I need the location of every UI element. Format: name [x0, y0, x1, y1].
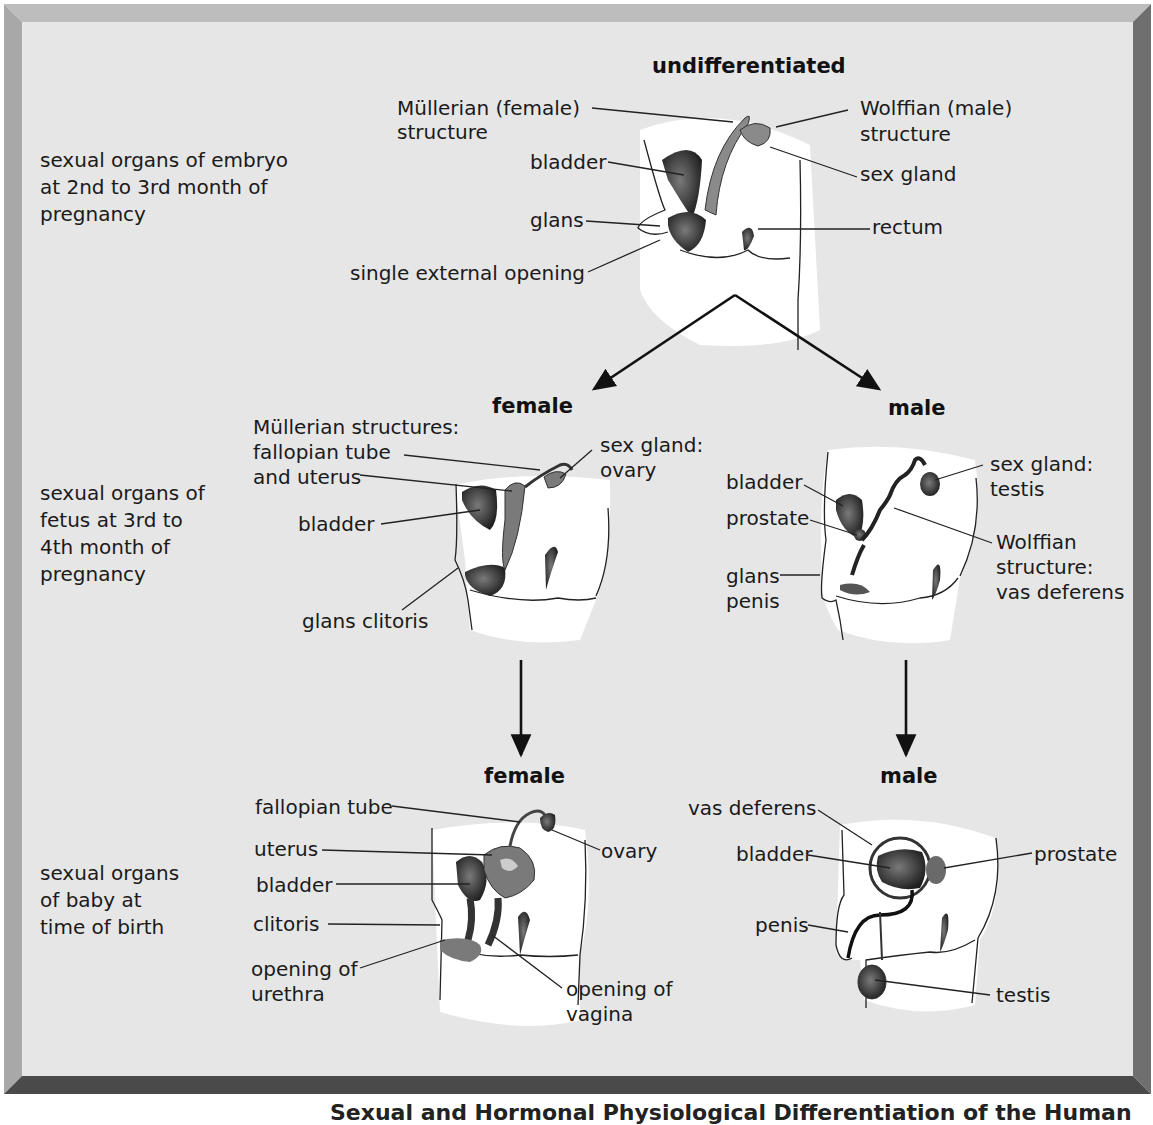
stage-line: fetus at 3rd to: [40, 507, 205, 534]
label-sex-gland: sex gland: [860, 162, 956, 186]
label-mullerian-structure-2: structure: [397, 120, 488, 144]
label-testis: testis: [996, 983, 1050, 1007]
label-bladder: bladder: [256, 873, 332, 897]
label-glans: glans: [530, 208, 584, 232]
label-wolffian-structure: Wolffian (male): [860, 96, 1012, 120]
label-single-external-opening: single external opening: [350, 261, 585, 285]
label-vas-deferens: vas deferens: [688, 796, 816, 820]
stage-line: pregnancy: [40, 201, 288, 228]
label-clitoris: clitoris: [253, 912, 319, 936]
label-fallopian-tube: fallopian tube: [255, 795, 393, 819]
label-vas-deferens: vas deferens: [996, 580, 1124, 604]
stage-line: sexual organs of embryo: [40, 147, 288, 174]
label-fallopian-tube: fallopian tube: [253, 440, 391, 464]
label-glans-penis-2: penis: [726, 589, 780, 613]
label-and-uterus: and uterus: [253, 465, 361, 489]
label-opening-of-vagina: opening of: [566, 977, 672, 1001]
stage-line: sexual organs: [40, 860, 179, 887]
heading-baby-female: female: [484, 764, 565, 788]
label-uterus: uterus: [254, 837, 318, 861]
stage-line: pregnancy: [40, 561, 205, 588]
stage-description-fetus: sexual organs of fetus at 3rd to 4th mon…: [40, 480, 205, 588]
label-bladder: bladder: [736, 842, 812, 866]
label-urethra: urethra: [251, 982, 325, 1006]
stage-line: of baby at: [40, 887, 179, 914]
label-bladder: bladder: [530, 150, 606, 174]
fetus-male-illustration: [821, 447, 978, 644]
label-penis: penis: [755, 913, 809, 937]
label-prostate: prostate: [726, 506, 809, 530]
stage-line: sexual organs of: [40, 480, 205, 507]
label-wolffian-structure-2: structure: [860, 122, 951, 146]
heading-fetus-male: male: [888, 396, 946, 420]
label-wolffian: Wolffian: [996, 530, 1077, 554]
heading-baby-male: male: [880, 764, 938, 788]
label-glans-penis: glans: [726, 564, 780, 588]
stage-description-embryo: sexual organs of embryo at 2nd to 3rd mo…: [40, 147, 288, 228]
label-mullerian-structure: Müllerian (female): [397, 96, 580, 120]
label-vagina: vagina: [566, 1002, 633, 1026]
label-prostate: prostate: [1034, 842, 1117, 866]
figure-caption: Sexual and Hormonal Physiological Differ…: [330, 1100, 1132, 1125]
label-bladder: bladder: [298, 512, 374, 536]
label-glans-clitoris: glans clitoris: [302, 609, 428, 633]
undifferentiated-illustration: [638, 116, 820, 350]
label-sex-gland-testis: sex gland:: [990, 452, 1093, 476]
label-testis: testis: [990, 477, 1044, 501]
label-bladder: bladder: [726, 470, 802, 494]
label-ovary: ovary: [600, 458, 656, 482]
stage-description-baby: sexual organs of baby at time of birth: [40, 860, 179, 941]
baby-male-illustration: [836, 820, 998, 1012]
fetus-female-illustration: [455, 464, 610, 642]
stage-line: 4th month of: [40, 534, 205, 561]
label-opening-of-urethra: opening of: [251, 957, 357, 981]
stage-line: at 2nd to 3rd month of: [40, 174, 288, 201]
heading-fetus-female: female: [492, 394, 573, 418]
stage-line: time of birth: [40, 914, 179, 941]
label-sex-gland-ovary: sex gland:: [600, 433, 703, 457]
label-ovary: ovary: [601, 839, 657, 863]
heading-undifferentiated: undifferentiated: [652, 54, 846, 78]
label-mullerian-structures: Müllerian structures:: [253, 415, 459, 439]
label-wolffian-structure: structure:: [996, 555, 1094, 579]
label-rectum: rectum: [872, 215, 943, 239]
